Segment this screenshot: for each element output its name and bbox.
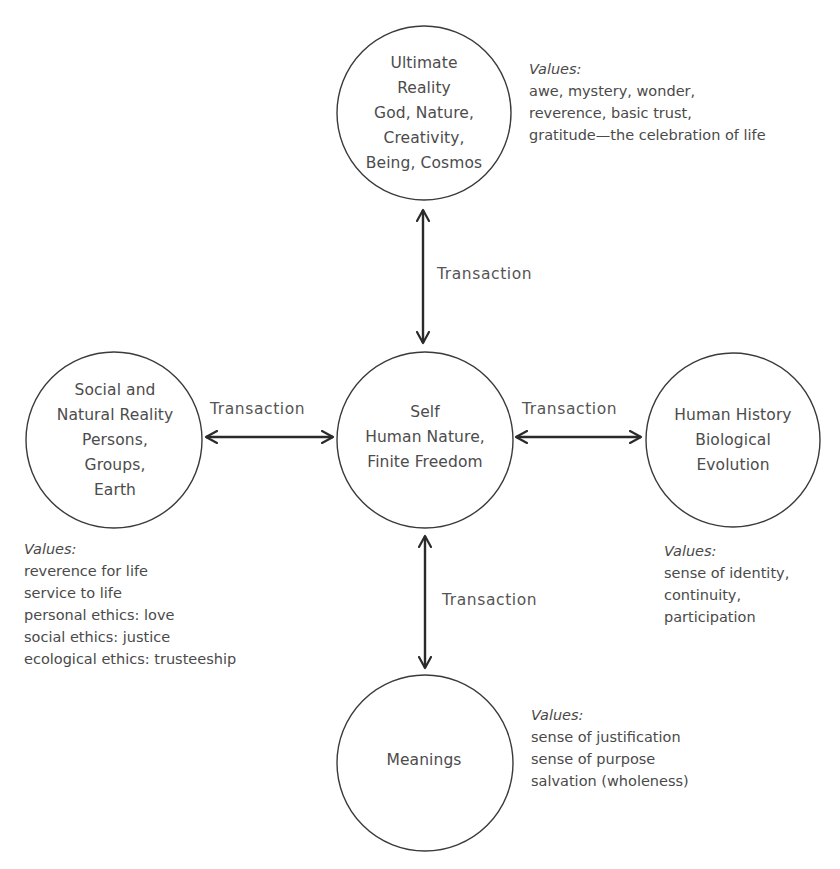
node-line: Groups, [57, 453, 174, 478]
node-line: Meanings [386, 748, 461, 773]
node-ultimate-reality: Ultimate Reality God, Nature, Creativity… [366, 51, 482, 176]
node-meanings: Meanings [386, 748, 461, 773]
values-item: awe, mystery, wonder, [529, 80, 766, 102]
values-meanings: Values: sense of justification sense of … [531, 704, 689, 792]
edge-label-bottom: Transaction [442, 591, 537, 609]
node-line: Earth [57, 478, 174, 503]
node-line: Biological [674, 428, 791, 453]
values-title: Values: [24, 538, 236, 560]
edge-label-right: Transaction [522, 400, 617, 418]
node-line: Finite Freedom [365, 450, 485, 475]
node-line: Human Nature, [365, 425, 485, 450]
values-human-history: Values: sense of identity, continuity, p… [664, 540, 789, 628]
values-social-natural-reality: Values: reverence for life service to li… [24, 538, 236, 670]
values-title: Values: [529, 58, 766, 80]
values-item: reverence, basic trust, [529, 102, 766, 124]
node-line: Self [365, 400, 485, 425]
values-item: social ethics: justice [24, 626, 236, 648]
values-item: gratitude—the celebration of life [529, 124, 766, 146]
values-item: sense of purpose [531, 748, 689, 770]
node-line: Ultimate [366, 51, 482, 76]
values-item: salvation (wholeness) [531, 770, 689, 792]
node-line: Natural Reality [57, 403, 174, 428]
values-item: personal ethics: love [24, 604, 236, 626]
values-item: reverence for life [24, 560, 236, 582]
node-line: God, Nature, [366, 101, 482, 126]
edge-label-top: Transaction [437, 265, 532, 283]
values-title: Values: [664, 540, 789, 562]
edge-label-left: Transaction [210, 400, 305, 418]
node-line: Being, Cosmos [366, 151, 482, 176]
node-line: Social and [57, 378, 174, 403]
values-item: service to life [24, 582, 236, 604]
values-item: sense of identity, [664, 562, 789, 584]
values-item: sense of justification [531, 726, 689, 748]
node-social-natural-reality: Social and Natural Reality Persons, Grou… [57, 378, 174, 503]
node-line: Evolution [674, 453, 791, 478]
node-line: Human History [674, 403, 791, 428]
values-item: participation [664, 606, 789, 628]
values-item: continuity, [664, 584, 789, 606]
values-ultimate-reality: Values: awe, mystery, wonder, reverence,… [529, 58, 766, 146]
node-human-history: Human History Biological Evolution [674, 403, 791, 478]
node-line: Creativity, [366, 126, 482, 151]
node-line: Reality [366, 76, 482, 101]
node-self: Self Human Nature, Finite Freedom [365, 400, 485, 475]
values-title: Values: [531, 704, 689, 726]
node-line: Persons, [57, 428, 174, 453]
values-item: ecological ethics: trusteeship [24, 648, 236, 670]
